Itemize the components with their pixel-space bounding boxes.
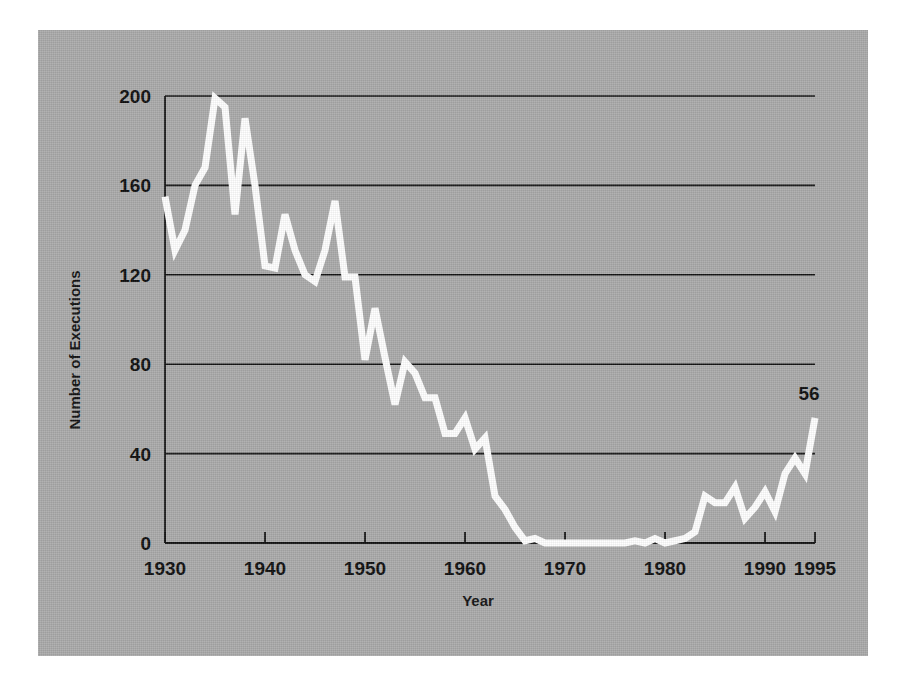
chart-page: 04080120160200 1930194019501960197019801… [0, 0, 912, 677]
data-annotations: 56 [798, 383, 819, 404]
x-tick-label-1960: 1960 [444, 558, 486, 579]
y-tick-label-200: 200 [119, 86, 151, 107]
y-tick-label-80: 80 [130, 354, 151, 375]
y-tick-label-40: 40 [130, 444, 151, 465]
y-tick-label-0: 0 [140, 533, 151, 554]
x-axis-title: Year [462, 592, 494, 609]
x-tick-label-1990: 1990 [744, 558, 786, 579]
x-tick-label-1950: 1950 [344, 558, 386, 579]
figure-panel: 04080120160200 1930194019501960197019801… [38, 30, 868, 656]
x-tick-label-1930: 1930 [144, 558, 186, 579]
annotation-56: 56 [798, 383, 819, 404]
y-tick-labels: 04080120160200 [119, 86, 151, 554]
y-tick-label-120: 120 [119, 265, 151, 286]
x-tick-label-1940: 1940 [244, 558, 286, 579]
data-series-group [165, 98, 815, 543]
executions-line [165, 98, 815, 543]
gridlines [165, 96, 815, 454]
x-tick-labels: 19301940195019601970198019901995 [144, 558, 837, 579]
x-tick-marks [165, 532, 815, 543]
x-tick-label-1980: 1980 [644, 558, 686, 579]
executions-line-chart: 04080120160200 1930194019501960197019801… [38, 30, 868, 656]
y-axis-title: Number of Executions [66, 270, 83, 429]
x-tick-label-1995: 1995 [794, 558, 837, 579]
y-tick-label-160: 160 [119, 175, 151, 196]
x-tick-label-1970: 1970 [544, 558, 586, 579]
